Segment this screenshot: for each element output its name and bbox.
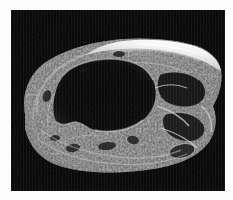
central-cavity (53, 59, 155, 132)
photo-plate (11, 10, 225, 191)
specimen-image (11, 10, 225, 191)
figure-root (0, 0, 233, 200)
